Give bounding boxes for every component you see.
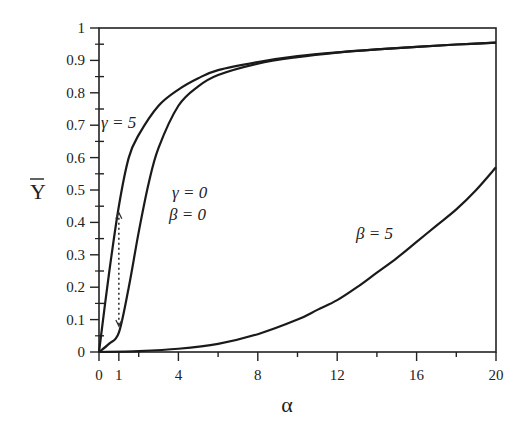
data-curves: [99, 43, 496, 352]
x-tick-label: 4: [175, 367, 183, 383]
curve-β-5: [99, 167, 496, 352]
x-tick-label: 0: [95, 367, 103, 383]
double-arrow-annotation: [116, 213, 122, 326]
x-tick-label: 16: [409, 367, 425, 383]
y-axis-title-text: Y: [30, 179, 46, 204]
y-tick-label: 0.2: [66, 279, 85, 295]
y-tick-label: 0.7: [66, 117, 85, 133]
y-tick-label: 0.1: [66, 312, 85, 328]
y-tick-label: 0.8: [66, 85, 85, 101]
x-tick-label: 12: [330, 367, 345, 383]
y-tick-label: 0: [78, 344, 86, 360]
x-tick-label: 20: [489, 367, 504, 383]
y-tick-label: 0.4: [66, 214, 85, 230]
curve-γ-5: [99, 43, 496, 352]
y-tick-label: 0.5: [66, 182, 85, 198]
y-tick-label: 0.6: [66, 150, 85, 166]
plot-frame: [99, 28, 496, 352]
annotation-beta-5: β = 5: [355, 224, 393, 243]
annotation-beta-0: β = 0: [168, 205, 206, 224]
curve-γ-0-β-0: [99, 43, 496, 352]
axis-ticks: 00.10.20.30.40.50.60.70.80.910148121620: [66, 20, 503, 383]
x-tick-label: 8: [254, 367, 262, 383]
x-tick-label: 1: [115, 367, 123, 383]
y-tick-label: 0.9: [66, 52, 85, 68]
annotation-gamma-0: γ = 0: [172, 183, 208, 202]
y-tick-label: 0.3: [66, 247, 85, 263]
chart-canvas: 00.10.20.30.40.50.60.70.80.910148121620 …: [0, 0, 525, 426]
plot-area: [99, 28, 496, 352]
y-axis-title: Y: [30, 179, 46, 204]
annotation-gamma-5: γ = 5: [101, 113, 136, 132]
y-tick-label: 1: [78, 20, 86, 36]
x-axis-title: α: [281, 392, 293, 417]
